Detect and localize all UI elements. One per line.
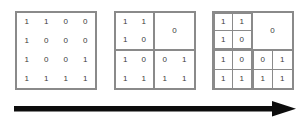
quadrant-top-right-stage-2: 0	[253, 13, 292, 51]
matrix-cell: 1	[175, 69, 195, 88]
quadrant-grid-stage-1: 1 1 1 0 0 1 0 1 1 0 1	[116, 13, 194, 88]
matrix-cell: 1	[116, 69, 135, 88]
quadrant-bottom-right-stage-1: 0 1 1 1	[155, 51, 194, 89]
matrix-cell: 1	[116, 51, 135, 70]
merged-leaf-value: 0	[253, 13, 292, 49]
matrix-cell: 0	[76, 13, 96, 32]
matrix-cell: 1	[214, 13, 234, 32]
matrix-cell: 0	[232, 50, 252, 70]
matrix-cell: 1	[253, 69, 274, 89]
matrix-cell: 0	[56, 13, 76, 32]
matrix-cell: 0	[135, 51, 154, 70]
cell-grid: 0 1 1 1	[155, 51, 194, 89]
matrix-cell: 1	[175, 51, 195, 70]
matrix-cell: 1	[116, 13, 135, 31]
matrix-cell: 1	[214, 30, 234, 49]
quadrant-bottom-left-stage-2: 1 0 1 1	[214, 51, 253, 89]
matrix-cell: 0	[135, 31, 154, 49]
matrix-stage-0: 1 1 0 0 1 0 0 0 1 0 0 1 1 1 1 1	[15, 11, 97, 90]
cell-grid: 1 0 1 1	[214, 51, 251, 89]
matrix-cell: 0	[232, 30, 252, 49]
cell-grid: 1 1 1 0	[116, 13, 153, 49]
matrix-cell: 1	[214, 69, 234, 89]
matrix-cell: 1	[272, 50, 293, 70]
matrix-stage-2: 1 1 1 0 0 1 0 1 1 0 1	[212, 11, 294, 90]
matrix-cell: 1	[76, 69, 96, 88]
quadrant-top-left-stage-2: 1 1 1 0	[214, 13, 253, 51]
matrix-cell: 1	[272, 69, 293, 89]
matrix-cell: 0	[56, 32, 76, 51]
matrix-cell: 1	[116, 31, 135, 49]
quadrant-top-left-stage-1: 1 1 1 0	[116, 13, 155, 51]
matrix-cell: 1	[155, 69, 175, 88]
matrix-cell: 1	[17, 13, 37, 32]
matrix-cell: 1	[17, 69, 37, 88]
progression-arrow-icon	[14, 98, 296, 120]
quadrant-grid-stage-2: 1 1 1 0 0 1 0 1 1 0 1	[214, 13, 292, 88]
matrix-cell: 1	[37, 13, 57, 32]
matrix-cell: 1	[135, 13, 154, 31]
matrix-cell: 0	[56, 51, 76, 70]
matrix-cell: 1	[135, 69, 154, 88]
matrix-cell: 1	[76, 51, 96, 70]
matrix-cell: 1	[37, 69, 57, 88]
quadtree-decomposition-figure: 1 1 0 0 1 0 0 0 1 0 0 1 1 1 1 1 1 1 1	[0, 0, 308, 126]
matrix-stage-1: 1 1 1 0 0 1 0 1 1 0 1	[114, 11, 196, 90]
matrix-cell: 1	[17, 32, 37, 51]
matrix-cell: 0	[155, 51, 175, 70]
matrix-cell: 1	[232, 13, 252, 32]
matrix-cell: 0	[37, 32, 57, 51]
matrix-cell: 1	[232, 69, 252, 89]
matrix-cell: 1	[56, 69, 76, 88]
matrix-cell: 0	[76, 32, 96, 51]
cell-grid: 1 1 1 0	[214, 13, 251, 49]
matrix-cell: 1	[214, 50, 234, 70]
cell-grid: 0 1 1 1	[253, 51, 292, 89]
merged-leaf-value: 0	[155, 13, 194, 49]
plain-grid-stage-0: 1 1 0 0 1 0 0 0 1 0 0 1 1 1 1 1	[17, 13, 95, 88]
quadrant-top-right-stage-1: 0	[155, 13, 194, 51]
quadrant-bottom-left-stage-1: 1 0 1 1	[116, 51, 155, 89]
quadrant-bottom-right-stage-2: 0 1 1 1	[253, 51, 292, 89]
matrix-cell: 0	[253, 50, 274, 70]
matrix-cell: 0	[37, 51, 57, 70]
matrix-cell: 1	[17, 51, 37, 70]
cell-grid: 1 0 1 1	[116, 51, 153, 89]
